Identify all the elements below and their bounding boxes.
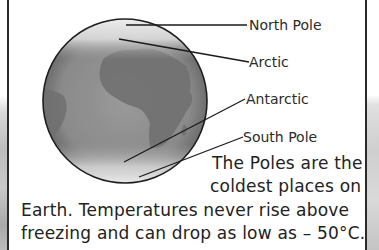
- caption-line-4: freezing and can drop as low as – 50°C.: [21, 222, 365, 244]
- label-north-pole: North Pole: [249, 17, 322, 33]
- label-antarctic: Antarctic: [246, 91, 309, 107]
- label-arctic: Arctic: [249, 54, 289, 70]
- caption-line-2: coldest places on: [210, 175, 361, 197]
- caption-line-1: The Poles are the: [212, 152, 363, 174]
- label-south-pole: South Pole: [243, 129, 317, 145]
- caption-line-3: Earth. Temperatures never rise above: [21, 199, 349, 221]
